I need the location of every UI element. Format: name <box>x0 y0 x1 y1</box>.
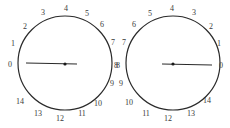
right-dial-hand <box>162 64 212 65</box>
left-dial-number-0: 0 <box>8 60 12 69</box>
left-dial-number-6: 6 <box>100 20 104 29</box>
right-dial-number-3: 3 <box>192 8 196 17</box>
right-dial-number-14: 14 <box>203 96 211 105</box>
right-dial-number-6: 6 <box>132 20 136 29</box>
left-dial-number-5: 5 <box>85 9 89 18</box>
right-dial: 01234567891011121314 <box>116 4 223 123</box>
left-dial-number-7: 7 <box>111 38 115 47</box>
left-dial-number-12: 12 <box>56 114 64 123</box>
right-dial-number-4: 4 <box>170 4 174 13</box>
left-dial-number-2: 2 <box>23 22 27 31</box>
left-dial: 01234567891011121314 <box>8 4 118 123</box>
left-dial-hand <box>26 63 77 64</box>
right-dial-number-11: 11 <box>142 109 150 118</box>
left-dial-number-4: 4 <box>64 4 68 13</box>
right-dial-number-8: 8 <box>116 61 120 70</box>
meter-dials-diagram: 01234567891011121314 0123456789101112131… <box>0 0 230 128</box>
left-dial-number-3: 3 <box>41 8 45 17</box>
left-dial-number-11: 11 <box>78 109 86 118</box>
left-dial-number-10: 10 <box>94 99 102 108</box>
left-dial-number-9: 9 <box>110 79 114 88</box>
right-dial-number-5: 5 <box>148 9 152 18</box>
right-dial-number-13: 13 <box>187 109 195 118</box>
left-dial-number-1: 1 <box>11 39 15 48</box>
left-dial-number-14: 14 <box>16 97 24 106</box>
right-dial-number-2: 2 <box>209 22 213 31</box>
right-dial-number-9: 9 <box>119 79 123 88</box>
right-dial-labels: 01234567891011121314 <box>116 4 223 123</box>
left-dial-pivot-icon <box>63 62 66 65</box>
right-dial-pivot-icon <box>171 62 174 65</box>
right-dial-number-0: 0 <box>219 61 223 70</box>
right-dial-number-10: 10 <box>125 98 133 107</box>
right-dial-number-7: 7 <box>122 38 126 47</box>
left-dial-number-13: 13 <box>34 109 42 118</box>
right-dial-number-12: 12 <box>164 114 172 123</box>
right-dial-number-1: 1 <box>217 39 221 48</box>
